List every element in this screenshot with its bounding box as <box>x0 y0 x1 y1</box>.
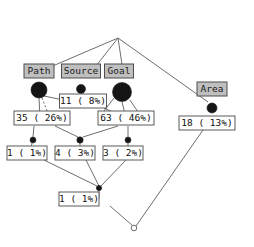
count-node-count-18[interactable]: 18 ( 13%) <box>179 116 235 130</box>
attribute-node-label: Path <box>28 65 51 76</box>
junction-source[interactable] <box>77 137 83 143</box>
count-node-label: 18 ( 13%) <box>181 117 232 128</box>
count-node-count-3[interactable]: 3 ( 2%) <box>103 146 143 160</box>
node-dot-area[interactable] <box>207 103 217 113</box>
node-dot-path[interactable] <box>31 82 47 98</box>
junction-merge[interactable] <box>96 185 101 190</box>
count-node-count-1b[interactable]: 1 ( 1%) <box>59 192 99 206</box>
count-node-label: 1 ( 1%) <box>59 193 99 204</box>
b35-to-junction-p <box>33 126 34 137</box>
count-node-label: 4 ( 3%) <box>55 147 95 158</box>
attribute-node-path[interactable]: Path <box>24 64 54 78</box>
count-node-count-11[interactable]: 11 ( 8%) <box>60 94 107 108</box>
node-dot-source[interactable] <box>77 85 86 94</box>
count-node-count-63[interactable]: 63 ( 46%) <box>98 111 154 125</box>
terminal-open[interactable] <box>131 225 137 231</box>
diagram-canvas: PathSourceGoalArea 11 ( 8%)35 ( 26%)63 (… <box>0 0 254 247</box>
attribute-node-label: Goal <box>108 65 131 76</box>
node-dot-goal[interactable] <box>113 83 132 102</box>
count-node-label: 11 ( 8%) <box>60 95 106 106</box>
count-node-count-35[interactable]: 35 ( 26%) <box>14 111 70 125</box>
count-node-label: 35 ( 26%) <box>16 112 67 123</box>
b1a-to-merge <box>44 160 97 186</box>
attribute-node-label: Source <box>64 65 99 76</box>
attribute-node-source[interactable]: Source <box>62 64 101 78</box>
count-node-count-4[interactable]: 4 ( 3%) <box>55 146 95 160</box>
attribute-node-area[interactable]: Area <box>197 82 227 96</box>
b35-to-junction-s <box>55 126 78 137</box>
b1b-to-terminal <box>110 206 133 226</box>
decision-tree-diagram: PathSourceGoalArea 11 ( 8%)35 ( 26%)63 (… <box>0 0 254 247</box>
count-node-count-1a[interactable]: 1 ( 1%) <box>7 146 47 160</box>
count-node-label: 3 ( 2%) <box>103 147 143 158</box>
b18-to-terminal <box>136 130 203 226</box>
attribute-node-goal[interactable]: Goal <box>105 64 134 78</box>
junction-path[interactable] <box>30 137 36 143</box>
count-node-label: 1 ( 1%) <box>7 147 47 158</box>
junction-goal[interactable] <box>125 137 131 143</box>
count-node-label: 63 ( 46%) <box>100 112 151 123</box>
attribute-node-label: Area <box>201 83 224 94</box>
count-nodes-layer: 11 ( 8%)35 ( 26%)63 ( 46%)18 ( 13%)1 ( 1… <box>7 94 235 206</box>
b3-to-merge <box>101 160 126 186</box>
b63-to-junction-s <box>83 126 118 137</box>
